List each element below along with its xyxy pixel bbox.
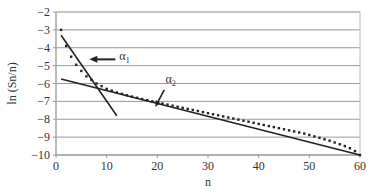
data-point (60, 29, 62, 31)
grid-lines (56, 12, 360, 155)
x-tick-label: 0 (53, 159, 59, 173)
data-point (333, 141, 335, 143)
data-point (197, 110, 199, 112)
y-tick-label: −7 (37, 94, 50, 108)
data-point (80, 70, 82, 72)
data-point (242, 119, 244, 121)
data-point (207, 112, 209, 114)
data-point (328, 140, 330, 142)
data-point (303, 132, 305, 134)
data-point (70, 55, 72, 57)
data-point (247, 121, 249, 123)
data-point (293, 130, 295, 132)
data-point (222, 115, 224, 117)
data-point (354, 150, 356, 152)
data-point (298, 131, 300, 133)
data-point (313, 135, 315, 137)
data-point (227, 116, 229, 118)
annotation-alpha1: α1 (89, 49, 129, 65)
data-point (308, 134, 310, 136)
data-point (100, 85, 102, 87)
data-point (349, 147, 351, 149)
y-tick-label: −9 (37, 130, 50, 144)
data-point (75, 64, 77, 66)
data-point (278, 127, 280, 129)
data-point (187, 108, 189, 110)
x-tick-label: 10 (101, 159, 113, 173)
data-point (283, 128, 285, 130)
data-point (176, 106, 178, 108)
data-point (273, 126, 275, 128)
data-point (257, 123, 259, 125)
data-point (344, 145, 346, 147)
x-tick-label: 30 (202, 159, 214, 173)
data-point (263, 124, 265, 126)
chart: −2−3−4−5−6−7−8−9−10 0102030405060 α1 α2 … (0, 0, 380, 193)
y-tick-label: −2 (37, 5, 50, 19)
chart-svg: −2−3−4−5−6−7−8−9−10 0102030405060 α1 α2 … (0, 0, 380, 193)
data-point (181, 107, 183, 109)
data-point (318, 137, 320, 139)
data-point (268, 125, 270, 127)
x-tick-label: 40 (253, 159, 265, 173)
annotation-layer: α1 α2 (89, 49, 175, 106)
y-tick-label: −8 (37, 112, 50, 126)
x-tick-label: 50 (303, 159, 315, 173)
data-point (237, 118, 239, 120)
y-tick-label: −10 (31, 148, 50, 162)
label-alpha2: α2 (165, 72, 175, 88)
y-tick-label: −6 (37, 77, 50, 91)
y-tick-label: −4 (37, 41, 50, 55)
y-tick-label: −5 (37, 59, 50, 73)
x-tick-label: 60 (354, 159, 366, 173)
data-point (323, 138, 325, 140)
arrowhead-alpha1-icon (89, 56, 97, 63)
data-point (192, 109, 194, 111)
data-point (202, 111, 204, 113)
data-point (288, 129, 290, 131)
data-point (232, 117, 234, 119)
data-point (212, 113, 214, 115)
x-axis-ticks: 0102030405060 (53, 155, 366, 173)
fit-line-α2 (61, 79, 360, 155)
data-point (85, 75, 87, 77)
data-point (252, 122, 254, 124)
data-point (339, 143, 341, 145)
label-alpha1: α1 (119, 49, 129, 65)
y-axis-label: ln (Sn/n) (5, 62, 19, 104)
data-point (217, 114, 219, 116)
x-axis-label: n (205, 175, 211, 189)
y-axis-ticks: −2−3−4−5−6−7−8−9−10 (31, 5, 56, 162)
x-tick-label: 20 (151, 159, 163, 173)
y-tick-label: −3 (37, 23, 50, 37)
